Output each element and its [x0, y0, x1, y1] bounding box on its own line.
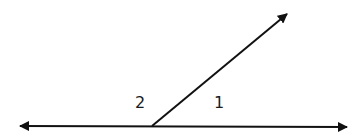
angle-diagram: [0, 0, 364, 139]
angle-label-2: 2: [135, 95, 145, 111]
horizontal-line: [20, 126, 347, 127]
angle-label-1: 1: [214, 95, 224, 111]
